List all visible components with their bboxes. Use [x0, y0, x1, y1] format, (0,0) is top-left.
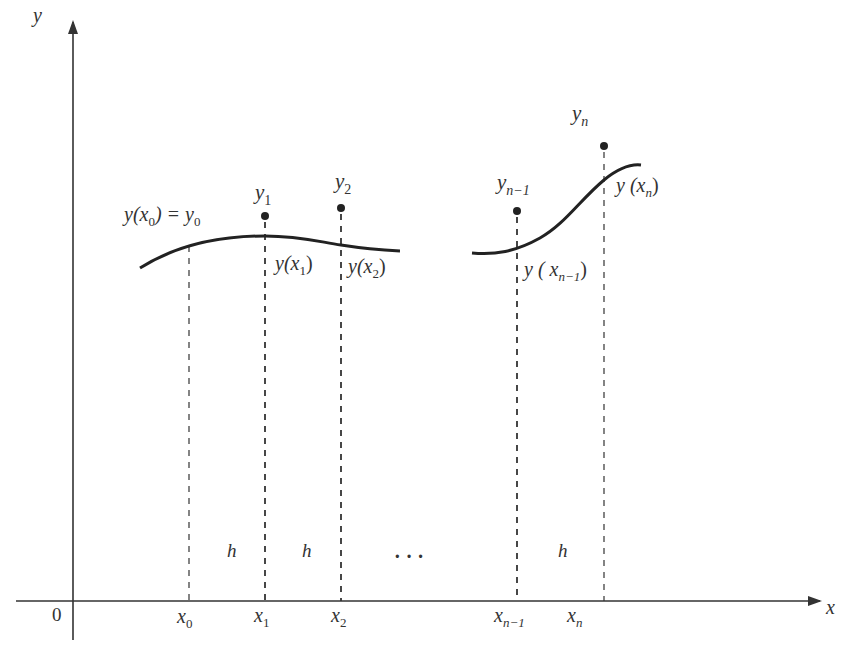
label-y-xn-1: y ( xn−1)	[522, 258, 587, 284]
euler-diagram: x y 0 y1 y2 yn−1 yn y(x0) = y0 y(x1) y(x…	[0, 0, 852, 646]
label-y-x2: y(x2)	[346, 255, 386, 281]
step-label-h-2: h	[302, 540, 312, 561]
tick-label-x1: x1	[253, 604, 269, 630]
tick-label-xn-1: xn−1	[493, 604, 525, 630]
label-yn-1: yn−1	[495, 170, 530, 198]
point-y1	[261, 212, 269, 220]
tick-label-x2: x2	[330, 604, 346, 630]
label-yn: yn	[570, 101, 588, 129]
origin-label: 0	[52, 604, 62, 625]
tick-label-xn: xn	[566, 604, 582, 630]
label-y1: y1	[253, 180, 271, 208]
label-initial-condition: y(x0) = y0	[122, 203, 200, 229]
point-y2	[337, 204, 345, 212]
ellipsis: · · ·	[394, 545, 424, 567]
grid-lines	[189, 152, 604, 601]
label-y-x1: y(x1)	[273, 252, 313, 278]
step-label-h-3: h	[558, 540, 568, 561]
x-axis-label: x	[825, 596, 835, 618]
tick-label-x0: x0	[176, 605, 192, 631]
point-yn	[600, 142, 608, 150]
step-label-h-1: h	[227, 540, 237, 561]
label-y2: y2	[333, 169, 351, 197]
y-axis-label: y	[31, 4, 42, 27]
point-yn-1	[513, 207, 521, 215]
label-y-xn: y (xn)	[614, 174, 659, 200]
